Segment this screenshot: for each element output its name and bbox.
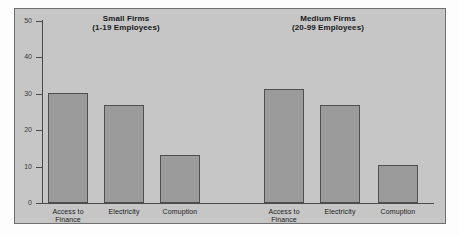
panel-title-medium-firms-line1: Medium Firms (258, 14, 398, 23)
panel-title-small-firms-line2: (1-19 Employees) (62, 23, 190, 32)
x-label-line2: Finance (40, 216, 96, 224)
y-tick-mark-50 (36, 21, 42, 22)
y-tick-mark-10 (36, 167, 42, 168)
y-tick-mark-20 (36, 130, 42, 131)
bar-medium-firms-corruption (378, 165, 418, 203)
x-label-line1: Access to (40, 208, 96, 216)
x-label-line1: Comuption (370, 208, 426, 216)
bar-small-firms-electricity (104, 105, 144, 203)
y-tick-mark-30 (36, 94, 42, 95)
y-tick-mark-0 (36, 203, 42, 204)
bar-small-firms-corruption (160, 155, 200, 203)
panel-title-medium-firms-line2: (20-99 Employees) (258, 23, 398, 32)
x-label-line1: Electricity (96, 208, 152, 216)
x-label-small-firms-corruption: Comuption (152, 208, 208, 216)
y-tick-label-50: 50 (8, 17, 32, 24)
chart-figure: 50 40 30 20 10 0 Small Firms (1-19 Emplo… (0, 0, 459, 237)
panel-title-medium-firms: Medium Firms (20-99 Employees) (258, 14, 398, 32)
x-label-line1: Access to (256, 208, 312, 216)
y-tick-label-10: 10 (8, 163, 32, 170)
bar-small-firms-access-to-finance (48, 93, 88, 203)
x-label-line2: Finance (256, 216, 312, 224)
x-label-line1: Comuption (152, 208, 208, 216)
x-label-medium-firms-access-to-finance: Access to Finance (256, 208, 312, 224)
y-tick-label-40: 40 (8, 53, 32, 60)
y-tick-mark-40 (36, 57, 42, 58)
x-axis-line (42, 203, 434, 204)
x-label-medium-firms-electricity: Electricity (312, 208, 368, 216)
x-label-medium-firms-corruption: Comuption (370, 208, 426, 216)
bar-medium-firms-access-to-finance (264, 89, 304, 203)
y-tick-label-30: 30 (8, 90, 32, 97)
panel-title-small-firms: Small Firms (1-19 Employees) (62, 14, 190, 32)
x-label-small-firms-access-to-finance: Access to Finance (40, 208, 96, 224)
y-axis-line (42, 20, 43, 204)
panel-title-small-firms-line1: Small Firms (62, 14, 190, 23)
y-tick-label-20: 20 (8, 126, 32, 133)
x-label-small-firms-electricity: Electricity (96, 208, 152, 216)
x-label-line1: Electricity (312, 208, 368, 216)
y-tick-label-0: 0 (8, 199, 32, 206)
bar-medium-firms-electricity (320, 105, 360, 203)
